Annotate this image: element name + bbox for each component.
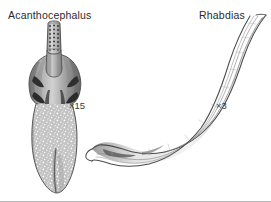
magnification-rhabdias: ×3: [216, 101, 227, 111]
rhabdias-drawing: [86, 14, 266, 166]
acanthocephalus-proboscis: [47, 21, 61, 54]
figure-panel: Acanthocephalus Rhabdias ×15 ×3: [0, 0, 271, 202]
magnification-acanthocephalus: ×15: [69, 101, 85, 111]
specimen-illustrations: [0, 0, 271, 202]
specimen-label-rhabdias: Rhabdias: [199, 10, 245, 21]
specimen-label-acanthocephalus: Acanthocephalus: [8, 10, 92, 21]
